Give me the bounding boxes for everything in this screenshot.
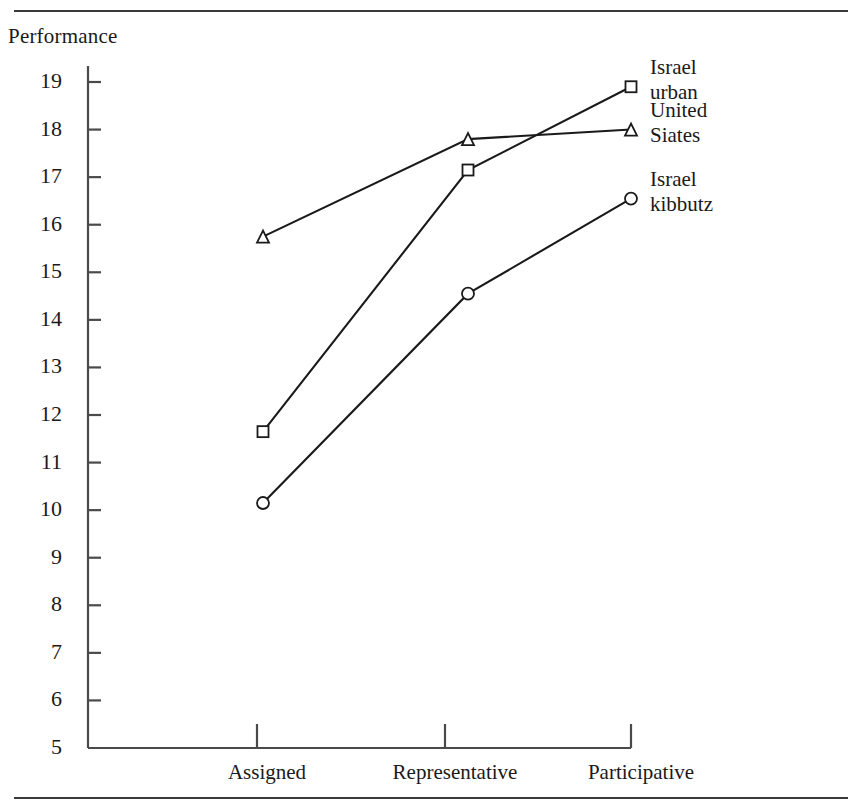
series-line	[263, 130, 631, 237]
y-axis-tick-label: 11	[18, 451, 62, 473]
legend-item-label-line: Siates	[650, 123, 707, 148]
data-point-marker-triangle	[257, 231, 269, 243]
y-axis-tick-label: 14	[18, 308, 62, 330]
series-line	[263, 199, 631, 503]
legend-item: Israelkibbutz	[650, 167, 713, 217]
y-axis-tick-label: 7	[18, 641, 62, 663]
y-axis-tick-label: 17	[18, 165, 62, 187]
legend-item-label-line: Israel	[650, 55, 698, 80]
chart-plot-area	[0, 0, 862, 811]
y-axis-tick-label: 13	[18, 355, 62, 377]
y-axis-tick-label: 12	[18, 403, 62, 425]
x-axis-category-label: Representative	[393, 762, 518, 783]
series-group	[257, 81, 637, 509]
data-point-marker-circle	[625, 193, 637, 205]
data-point-marker-circle	[462, 288, 474, 300]
axes-group	[88, 66, 631, 748]
y-axis-tick-label: 16	[18, 213, 62, 235]
data-point-marker-circle	[257, 497, 269, 509]
y-axis-tick-label: 18	[18, 118, 62, 140]
legend-item: UnitedSiates	[650, 98, 707, 148]
x-axis-category-label: Participative	[588, 762, 694, 783]
y-axis-tick-label: 9	[18, 546, 62, 568]
legend-item-label-line: United	[650, 98, 707, 123]
y-axis-tick-label: 15	[18, 260, 62, 282]
series-line	[263, 87, 631, 432]
x-axis-category-label: Assigned	[228, 762, 306, 783]
y-axis-tick-label: 8	[18, 593, 62, 615]
data-point-marker-square	[258, 426, 269, 437]
legend-item-label-line: Israel	[650, 167, 713, 192]
y-axis-tick-label: 10	[18, 498, 62, 520]
data-point-marker-square	[626, 81, 637, 92]
y-axis-tick-label: 6	[18, 688, 62, 710]
data-point-marker-square	[463, 165, 474, 176]
legend-item-label-line: kibbutz	[650, 192, 713, 217]
figure-container: Performance 1918171615141312111098765 As…	[0, 0, 862, 811]
y-axis-tick-label: 5	[18, 736, 62, 758]
y-axis-tick-label: 19	[18, 70, 62, 92]
